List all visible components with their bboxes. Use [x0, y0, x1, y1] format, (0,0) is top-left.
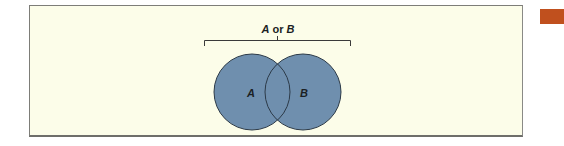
- set-b-label: B: [300, 87, 308, 99]
- venn-diagram: A or B A B: [0, 0, 564, 146]
- set-a-label: A: [246, 87, 255, 99]
- union-label: A or B: [260, 23, 294, 35]
- union-region: [214, 54, 341, 130]
- union-bracket: [205, 36, 351, 46]
